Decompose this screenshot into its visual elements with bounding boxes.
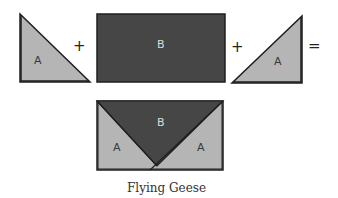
- equals-operator: =: [308, 37, 321, 55]
- label-b: B: [157, 38, 165, 51]
- result-label-a-left: A: [113, 141, 121, 154]
- plus-operator-2: +: [231, 38, 244, 56]
- flying-geese-diagram: A + B + A = B A A Flying Geese: [0, 0, 338, 198]
- flying-geese-block: B A A: [97, 101, 223, 170]
- rectangle-b: B: [97, 14, 225, 82]
- label-a-right: A: [274, 55, 282, 68]
- label-a-left: A: [34, 54, 42, 67]
- result-label-a-right: A: [197, 141, 205, 154]
- result-label-b: B: [157, 116, 165, 129]
- caption: Flying Geese: [127, 181, 206, 195]
- plus-operator-1: +: [73, 37, 86, 55]
